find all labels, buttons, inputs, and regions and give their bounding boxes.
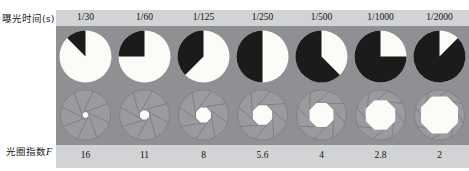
aperture-symbol-f: F xyxy=(46,146,52,157)
iris-opening xyxy=(83,112,89,118)
iris-opening xyxy=(253,105,272,124)
iris-diaphragm xyxy=(410,87,469,143)
iris-opening xyxy=(366,100,396,130)
iris-opening xyxy=(196,108,211,123)
pie-cell xyxy=(174,27,233,87)
aperture-index-row-label: 光圈指数F xyxy=(6,144,52,158)
iris-opening xyxy=(421,97,458,134)
chart-column: 1/20002 xyxy=(410,10,469,168)
pie-cell xyxy=(233,27,292,87)
chart-column: 1/2505.6 xyxy=(233,10,292,168)
chart-column: 1/1258 xyxy=(174,10,233,168)
pie-chart xyxy=(292,27,351,86)
iris-cell xyxy=(56,87,115,145)
exposure-time-value: 1/125 xyxy=(174,12,233,22)
exposure-time-row-label: 曝光时间(s) xyxy=(2,11,54,25)
iris-diaphragm xyxy=(174,87,233,143)
exposure-time-value: 1/2000 xyxy=(410,12,469,22)
aperture-label-text: 光圈指数 xyxy=(6,146,46,157)
pie-dark-slice xyxy=(237,31,263,83)
iris-cell xyxy=(410,87,469,145)
column-container: 1/30161/60111/12581/2505.61/50041/10002.… xyxy=(56,10,469,168)
chart-column: 1/3016 xyxy=(56,10,115,168)
exposure-time-value: 1/30 xyxy=(56,12,115,22)
aperture-f-value: 8 xyxy=(174,150,233,160)
aperture-f-value: 2.8 xyxy=(351,150,410,160)
exposure-time-value: 1/250 xyxy=(233,12,292,22)
pie-cell xyxy=(56,27,115,87)
aperture-f-value: 2 xyxy=(410,150,469,160)
pie-chart xyxy=(233,27,292,86)
iris-cell xyxy=(233,87,292,145)
iris-opening xyxy=(140,110,149,119)
pie-chart xyxy=(174,27,233,86)
exposure-time-value: 1/1000 xyxy=(351,12,410,22)
pie-cell xyxy=(351,27,410,87)
chart-column: 1/5004 xyxy=(292,10,351,168)
chart-panel: 1/30161/60111/12581/2505.61/50041/10002.… xyxy=(56,10,469,168)
chart-column: 1/10002.8 xyxy=(351,10,410,168)
exposure-aperture-figure: 曝光时间(s) 光圈指数F 1/30161/60111/12581/2505.6… xyxy=(0,0,469,171)
iris-diaphragm xyxy=(351,87,410,143)
iris-cell xyxy=(351,87,410,145)
iris-cell xyxy=(292,87,351,145)
aperture-f-value: 5.6 xyxy=(233,150,292,160)
aperture-f-value: 4 xyxy=(292,150,351,160)
iris-opening xyxy=(309,103,333,127)
pie-dark-slice xyxy=(119,31,145,57)
aperture-f-value: 11 xyxy=(115,150,174,160)
exposure-time-value: 1/60 xyxy=(115,12,174,22)
pie-cell xyxy=(410,27,469,87)
pie-chart xyxy=(351,27,410,86)
iris-diaphragm xyxy=(292,87,351,143)
iris-diaphragm xyxy=(115,87,174,143)
iris-cell xyxy=(115,87,174,145)
pie-chart xyxy=(410,27,469,86)
pie-cell xyxy=(115,27,174,87)
iris-cell xyxy=(174,87,233,145)
aperture-f-value: 16 xyxy=(56,150,115,160)
pie-cell xyxy=(292,27,351,87)
iris-diaphragm xyxy=(233,87,292,143)
exposure-time-value: 1/500 xyxy=(292,12,351,22)
iris-diaphragm xyxy=(56,87,115,143)
pie-chart xyxy=(56,27,115,86)
pie-chart xyxy=(115,27,174,86)
chart-column: 1/6011 xyxy=(115,10,174,168)
